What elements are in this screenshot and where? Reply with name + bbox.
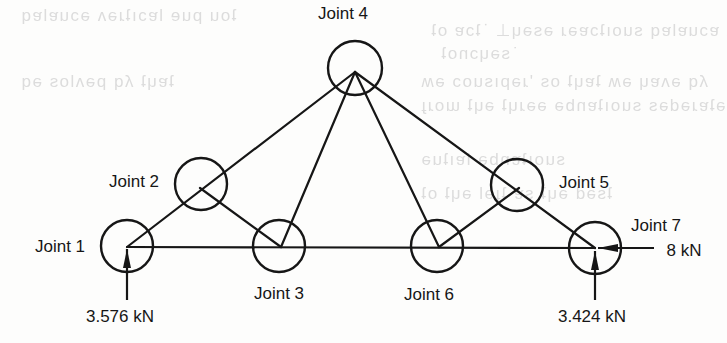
arrowhead-left-icon [598, 244, 618, 252]
joint-7-label: Joint 7 [631, 217, 681, 234]
member-1-2-4 [127, 72, 355, 247]
applied-load-label: 8 kN [667, 242, 702, 259]
reaction-7-label: 3.424 kN [558, 308, 626, 325]
joint-2-label: Joint 2 [109, 173, 159, 190]
joint-4-circle [328, 41, 382, 95]
applied-load-arrow-joint-7 [598, 244, 654, 252]
member-5-6 [439, 188, 519, 247]
reaction-1-label: 3.576 kN [86, 308, 154, 325]
reaction-arrow-joint-1 [123, 249, 131, 300]
joint-3-label: Joint 3 [254, 285, 304, 302]
arrowhead-up-icon [591, 251, 599, 270]
joint-5-label: Joint 5 [559, 174, 609, 191]
joint-6-circle [411, 220, 463, 272]
joint-5-circle [491, 159, 543, 211]
arrowhead-up-icon [123, 249, 131, 268]
diagram-canvas: ʇou pue ɐǝɹɐ ʇɐǝʌ ɐɔuɐlɐq suoıʇɔɐǝɹ ǝsǝɥ… [0, 0, 727, 343]
member-3-4 [281, 72, 355, 247]
joint-2-circle [175, 158, 227, 210]
joint-1-label: Joint 1 [35, 238, 85, 255]
joint-6-label: Joint 6 [404, 286, 454, 303]
joint-4-label: Joint 4 [318, 5, 368, 22]
member-2-3 [200, 188, 281, 247]
member-4-6 [355, 72, 439, 247]
reaction-arrow-joint-7 [591, 251, 599, 300]
member-bottom-chord [127, 247, 595, 248]
